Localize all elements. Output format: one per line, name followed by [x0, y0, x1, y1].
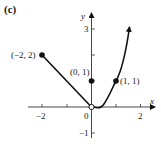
piecewise-function-graph: −2 2 0 3 −1 x y (−2, 2) (0, 1) (1, 1) — [0, 0, 161, 147]
x-axis-label: x — [149, 96, 154, 106]
y-tick-label-neg1: −1 — [79, 128, 89, 138]
parabola-curve — [93, 27, 130, 108]
closed-point-1-1 — [113, 78, 119, 84]
origin-label: 0 — [84, 111, 89, 121]
annotation-0-1: (0, 1) — [70, 67, 90, 77]
x-tick-label-2: 2 — [138, 111, 143, 121]
closed-point-0-1 — [89, 78, 95, 84]
y-tick-label-3: 3 — [84, 24, 89, 34]
y-axis-label: y — [80, 11, 85, 21]
x-tick-label-neg2: −2 — [36, 111, 46, 121]
annotation-neg2-2: (−2, 2) — [11, 50, 36, 60]
open-point-origin — [89, 104, 94, 109]
annotation-1-1: (1, 1) — [120, 76, 140, 86]
closed-point-neg2-2 — [39, 52, 45, 58]
left-line-segment — [42, 55, 90, 106]
